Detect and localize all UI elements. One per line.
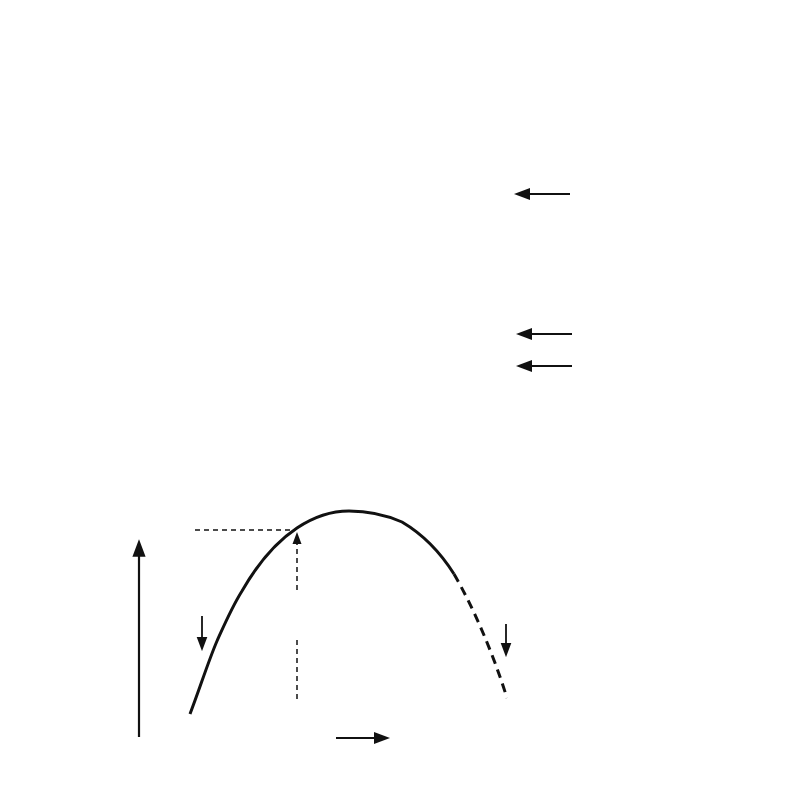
diagram-canvas — [0, 0, 796, 798]
precipitin-diagram — [0, 0, 796, 798]
precipitin-curve — [139, 511, 507, 738]
curve-solid — [190, 511, 454, 714]
curve-dashed — [454, 574, 507, 698]
